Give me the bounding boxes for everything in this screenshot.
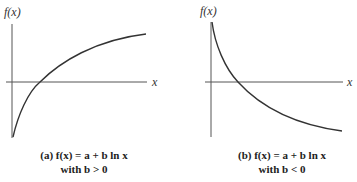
panel-b-caption-line1: (b) f(x) = a + b ln x	[197, 148, 357, 162]
panel-a-curve	[13, 34, 146, 137]
panel-a-ylabel: f(x)	[4, 5, 21, 19]
panel-b-ylabel: f(x)	[200, 4, 217, 18]
panel-b-xlabel: x	[346, 75, 353, 89]
panel-b-caption-line2: with b < 0	[197, 162, 357, 176]
panel-a-caption-line1: (a) f(x) = a + b ln x	[0, 148, 169, 162]
panel-a-xlabel: x	[151, 75, 158, 89]
panel-a-caption-line2: with b > 0	[0, 162, 169, 176]
panel-a-caption: (a) f(x) = a + b ln x with b > 0	[0, 148, 169, 176]
panel-b-caption: (b) f(x) = a + b ln x with b < 0	[197, 148, 357, 176]
panel-a-chart: f(x) x	[4, 5, 158, 138]
panel-b-chart: f(x) x	[200, 4, 353, 137]
panel-b-curve	[212, 22, 342, 131]
